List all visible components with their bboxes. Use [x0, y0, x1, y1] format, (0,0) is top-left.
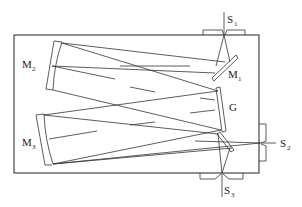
svg-text:1: 1 — [238, 75, 242, 83]
light-rays — [44, 35, 260, 173]
svg-text:2: 2 — [32, 65, 36, 73]
svg-text:3: 3 — [231, 191, 235, 199]
slit-s1 — [203, 12, 245, 35]
spectrometer-diagram: S 1 M 1 M 2 M 3 G S 2 S 3 — [0, 0, 302, 207]
svg-text:S: S — [224, 184, 230, 196]
mirror-m2 — [46, 41, 62, 90]
svg-text:S: S — [280, 137, 286, 149]
svg-text:2: 2 — [287, 144, 291, 152]
svg-text:M: M — [228, 68, 238, 80]
svg-text:1: 1 — [234, 20, 238, 28]
svg-text:M: M — [22, 58, 32, 70]
slit-s2 — [259, 124, 276, 161]
slit-s3 — [200, 173, 243, 197]
label-m3: M 3 — [22, 136, 36, 151]
grating-g — [216, 87, 226, 132]
svg-text:M: M — [22, 136, 32, 148]
label-s2: S 2 — [280, 137, 291, 152]
label-s1: S 1 — [227, 13, 238, 28]
mirror-m3 — [36, 114, 53, 165]
svg-text:S: S — [227, 13, 233, 25]
label-m2: M 2 — [22, 58, 36, 73]
label-s3: S 3 — [224, 184, 235, 199]
label-m1: M 1 — [228, 68, 242, 83]
label-g: G — [229, 101, 237, 113]
svg-text:G: G — [229, 101, 237, 113]
svg-text:3: 3 — [32, 143, 36, 151]
